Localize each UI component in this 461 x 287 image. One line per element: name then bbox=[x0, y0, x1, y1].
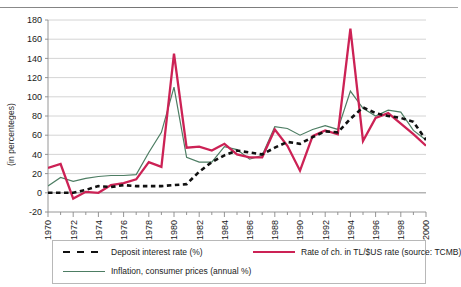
gridlines bbox=[48, 20, 426, 193]
svg-text:1976: 1976 bbox=[119, 220, 129, 240]
svg-text:0: 0 bbox=[37, 188, 42, 198]
svg-text:120: 120 bbox=[27, 73, 42, 83]
legend-label: Deposit interest rate (%) bbox=[111, 247, 203, 257]
svg-text:-20: -20 bbox=[29, 207, 42, 217]
svg-text:80: 80 bbox=[32, 111, 42, 121]
svg-text:2000: 2000 bbox=[421, 220, 431, 240]
legend-swatch-dashed-icon bbox=[63, 248, 105, 257]
svg-text:1982: 1982 bbox=[195, 220, 205, 240]
svg-text:1998: 1998 bbox=[396, 220, 406, 240]
data-series-group bbox=[48, 29, 426, 199]
header-divider bbox=[0, 7, 458, 8]
svg-text:1972: 1972 bbox=[69, 220, 79, 240]
svg-text:1990: 1990 bbox=[295, 220, 305, 240]
svg-text:100: 100 bbox=[27, 92, 42, 102]
svg-text:20: 20 bbox=[32, 169, 42, 179]
legend-item-deposit-interest-rate: Deposit interest rate (%) bbox=[63, 247, 203, 257]
svg-text:60: 60 bbox=[32, 130, 42, 140]
legend-item-tl-usd-rate: Rate of ch. in TL/$US rate (source: TCMB… bbox=[253, 247, 461, 257]
svg-text:1984: 1984 bbox=[220, 220, 230, 240]
legend-label: Inflation, consumer prices (annual %) bbox=[111, 266, 251, 276]
svg-text:40: 40 bbox=[32, 150, 42, 160]
svg-text:140: 140 bbox=[27, 54, 42, 64]
svg-text:1978: 1978 bbox=[144, 220, 154, 240]
chart-plot-svg: -20020406080100120140160180 197019721974… bbox=[0, 12, 458, 274]
svg-text:1994: 1994 bbox=[346, 220, 356, 240]
legend-swatch-red-icon bbox=[253, 248, 295, 257]
svg-text:1980: 1980 bbox=[169, 220, 179, 240]
y-axis-ticks: -20020406080100120140160180 bbox=[27, 15, 48, 217]
legend-swatch-green-icon bbox=[63, 267, 105, 276]
legend-item-inflation: Inflation, consumer prices (annual %) bbox=[63, 266, 251, 276]
svg-text:1988: 1988 bbox=[270, 220, 280, 240]
svg-text:1992: 1992 bbox=[321, 220, 331, 240]
chart-legend: Deposit interest rate (%) Rate of ch. in… bbox=[52, 240, 426, 284]
svg-text:1986: 1986 bbox=[245, 220, 255, 240]
svg-text:1996: 1996 bbox=[371, 220, 381, 240]
legend-label: Rate of ch. in TL/$US rate (source: TCMB… bbox=[301, 247, 461, 257]
svg-text:180: 180 bbox=[27, 15, 42, 25]
x-axis-ticks: 1970197219741976197819801982198419861988… bbox=[43, 212, 431, 240]
line-chart-figure: (in percenteges) -2002040608010012014016… bbox=[0, 12, 458, 274]
svg-text:160: 160 bbox=[27, 34, 42, 44]
svg-text:1970: 1970 bbox=[43, 220, 53, 240]
svg-text:1974: 1974 bbox=[94, 220, 104, 240]
